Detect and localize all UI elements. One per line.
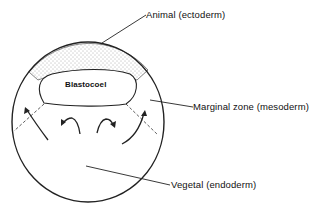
label-animal-ectoderm: Animal (ectoderm) <box>146 9 225 20</box>
leader-vegetal <box>86 166 170 185</box>
arrow-icon <box>27 110 48 140</box>
label-vegetal-endoderm: Vegetal (endoderm) <box>171 179 256 190</box>
marginal-boundary-left <box>14 104 44 131</box>
leader-marginal <box>150 100 193 107</box>
leader-animal <box>102 15 146 43</box>
arrow-icon <box>122 113 144 144</box>
gastrulation-arrows <box>27 110 144 144</box>
arrow-icon <box>97 119 113 133</box>
label-blastocoel: Blastocoel <box>65 80 106 89</box>
arrowheads <box>24 107 147 128</box>
label-marginal-zone-mesoderm: Marginal zone (mesoderm) <box>193 101 309 112</box>
arrow-icon <box>63 118 80 134</box>
